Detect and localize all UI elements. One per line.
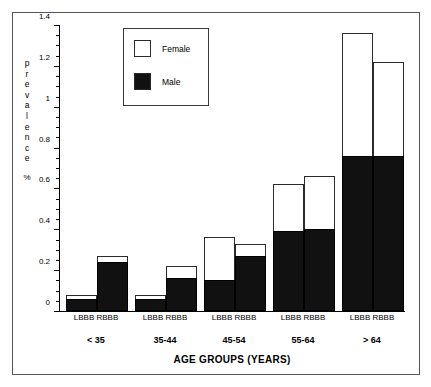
legend-swatch-male-icon bbox=[134, 73, 151, 90]
y-axis-tick-minor bbox=[56, 178, 59, 179]
y-axis-tick-label: 0 bbox=[46, 298, 50, 307]
y-axis-tick-minor bbox=[56, 86, 59, 87]
y-axis-tick-label: 0.8 bbox=[39, 135, 50, 144]
y-axis-tick-minor bbox=[56, 137, 59, 138]
y-axis-tick-minor bbox=[56, 117, 59, 118]
y-axis-title-char: l bbox=[16, 111, 38, 122]
x-axis-group-labels: LBBB RBBB< 35LBBB RBBB35-44LBBB RBBB45-5… bbox=[59, 313, 405, 359]
y-axis-tick-minor bbox=[56, 35, 59, 36]
bar-series-container bbox=[60, 25, 405, 311]
bar-segment-male bbox=[135, 299, 166, 311]
y-axis-tick-label: 1.4 bbox=[39, 12, 50, 21]
y-axis-tick-minor bbox=[56, 301, 59, 302]
y-axis-tick-minor bbox=[56, 291, 59, 292]
y-axis-title-char: n bbox=[16, 132, 38, 143]
y-axis-unit-label: % bbox=[16, 173, 38, 184]
y-axis-tick-major bbox=[54, 107, 59, 108]
bar-lbbb-4 bbox=[342, 33, 373, 311]
bar-rbbb-3 bbox=[304, 176, 335, 311]
bar-segment-male bbox=[342, 156, 373, 311]
y-axis-tick-label: 0.6 bbox=[39, 175, 50, 184]
bar-segment-male bbox=[304, 229, 335, 311]
y-axis-tick-minor bbox=[56, 240, 59, 241]
y-axis-tick-label: 1.2 bbox=[39, 53, 50, 62]
y-axis-title-char: e bbox=[16, 79, 38, 90]
y-axis-tick-major bbox=[54, 270, 59, 271]
y-axis-tick-minor bbox=[56, 97, 59, 98]
y-axis-tick-minor bbox=[56, 45, 59, 46]
y-axis-title-char: c bbox=[16, 143, 38, 154]
y-axis-title-char: p bbox=[16, 58, 38, 69]
y-axis-tick-major bbox=[54, 229, 59, 230]
y-axis-tick-minor bbox=[56, 168, 59, 169]
x-axis-group-4: LBBB RBBB> 64 bbox=[331, 313, 413, 345]
legend-label-female: Female bbox=[162, 44, 190, 54]
y-axis-title-char: e bbox=[16, 122, 38, 133]
y-axis-tick-major bbox=[54, 25, 59, 26]
bar-segment-male bbox=[373, 156, 404, 311]
y-axis-tick-label: 0.2 bbox=[39, 257, 50, 266]
y-axis-tick-minor bbox=[56, 260, 59, 261]
legend-label-male: Male bbox=[162, 77, 180, 87]
y-axis-title-char: e bbox=[16, 153, 38, 164]
y-axis-tick-minor bbox=[56, 209, 59, 210]
bar-lbbb-0 bbox=[66, 295, 97, 311]
y-axis-tick-minor bbox=[56, 280, 59, 281]
bar-segment-male bbox=[204, 280, 235, 311]
y-axis-tick-major bbox=[54, 66, 59, 67]
bar-lbbb-3 bbox=[273, 184, 304, 311]
bar-rbbb-2 bbox=[235, 244, 266, 311]
x-axis-subcategory-labels: LBBB RBBB bbox=[331, 313, 413, 322]
y-axis-tick-minor bbox=[56, 199, 59, 200]
y-axis-tick-minor bbox=[56, 219, 59, 220]
bar-segment-male bbox=[166, 278, 197, 311]
bar-lbbb-2 bbox=[204, 237, 235, 311]
x-axis-title: AGE GROUPS (YEARS) bbox=[59, 354, 405, 365]
bar-segment-male bbox=[273, 231, 304, 311]
y-axis-tick-minor bbox=[56, 158, 59, 159]
bar-rbbb-4 bbox=[373, 62, 404, 311]
y-axis-tick-major bbox=[54, 311, 59, 312]
y-axis-tick-label: 1 bbox=[46, 94, 50, 103]
y-axis-tick-minor bbox=[56, 76, 59, 77]
y-axis-tick-minor bbox=[56, 127, 59, 128]
x-axis-line bbox=[59, 311, 405, 312]
bar-segment-male bbox=[97, 262, 128, 311]
bar-rbbb-1 bbox=[166, 266, 197, 311]
bar-lbbb-1 bbox=[135, 295, 166, 311]
y-axis-tick-minor bbox=[56, 250, 59, 251]
y-axis-tick-label: 0.4 bbox=[39, 216, 50, 225]
legend: Female Male bbox=[123, 28, 209, 106]
y-axis-title-char: r bbox=[16, 69, 38, 80]
bar-rbbb-0 bbox=[97, 256, 128, 311]
plot-area: 00.20.40.60.811.21.4 bbox=[59, 25, 405, 312]
chart-figure: p r e v a l e n c e % 00.20.40.60.811.21… bbox=[0, 0, 431, 387]
bar-segment-male bbox=[235, 256, 266, 311]
y-axis-title-char: v bbox=[16, 90, 38, 101]
legend-swatch-female-icon bbox=[134, 40, 151, 57]
y-axis-tick-major bbox=[54, 188, 59, 189]
x-axis-age-group-label: > 64 bbox=[331, 335, 413, 345]
y-axis-title-char: a bbox=[16, 100, 38, 111]
bar-segment-male bbox=[66, 299, 97, 311]
y-axis-title: p r e v a l e n c e % bbox=[16, 58, 38, 184]
y-axis-tick-minor bbox=[56, 56, 59, 57]
y-axis-tick-major bbox=[54, 148, 59, 149]
